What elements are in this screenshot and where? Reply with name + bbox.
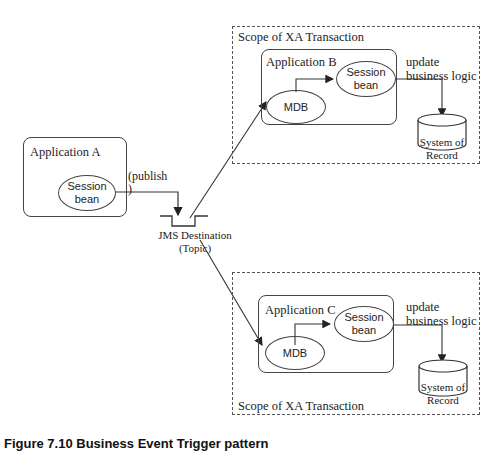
session-bean-b-label: Session bean <box>346 66 385 92</box>
application-b-label: Application B <box>266 55 336 69</box>
session-bean-a: Session bean <box>58 175 116 211</box>
scope-label-top: Scope of XA Transaction <box>238 30 364 44</box>
application-c-label: Application C <box>265 303 335 317</box>
mdb-b: MDB <box>266 90 326 124</box>
system-of-record-b: System of Record <box>412 136 472 162</box>
mdb-c-label: MDB <box>283 347 307 360</box>
session-bean-c: Session bean <box>334 306 394 342</box>
application-a-label: Application A <box>30 145 100 159</box>
figure-caption: Figure 7.10 Business Event Trigger patte… <box>4 436 268 451</box>
mdb-b-label: MDB <box>284 101 308 114</box>
jms-destination-label: JMS Destination (Topic) <box>140 229 250 255</box>
update-business-logic-b: update business logic <box>406 55 476 83</box>
session-bean-a-label: Session bean <box>67 180 106 206</box>
scope-label-bottom: Scope of XA Transaction <box>238 399 364 413</box>
system-of-record-c: System of Record <box>413 381 473 407</box>
mdb-c: MDB <box>265 336 325 370</box>
publish-label: (publish ) <box>128 170 167 196</box>
update-business-logic-c: update business logic <box>406 300 476 328</box>
session-bean-c-label: Session bean <box>344 311 383 337</box>
session-bean-b: Session bean <box>336 61 396 97</box>
